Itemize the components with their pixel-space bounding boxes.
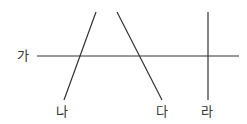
label-da: 다 bbox=[156, 105, 168, 118]
label-ra: 라 bbox=[201, 105, 213, 118]
label-ga: 가 bbox=[17, 49, 29, 62]
label-na: 나 bbox=[56, 105, 68, 118]
